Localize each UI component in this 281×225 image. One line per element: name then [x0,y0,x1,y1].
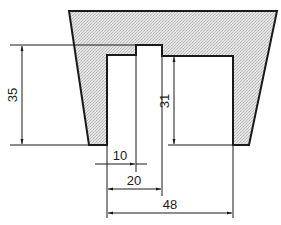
dim-label-20: 20 [127,173,141,188]
dim-label-10: 10 [113,148,127,163]
technical-drawing: 35 31 10 20 48 [0,0,281,225]
dim-label-48: 48 [163,197,177,212]
dim-label-31: 31 [157,94,172,108]
dim-label-35: 35 [5,88,20,102]
section-body [69,11,277,145]
